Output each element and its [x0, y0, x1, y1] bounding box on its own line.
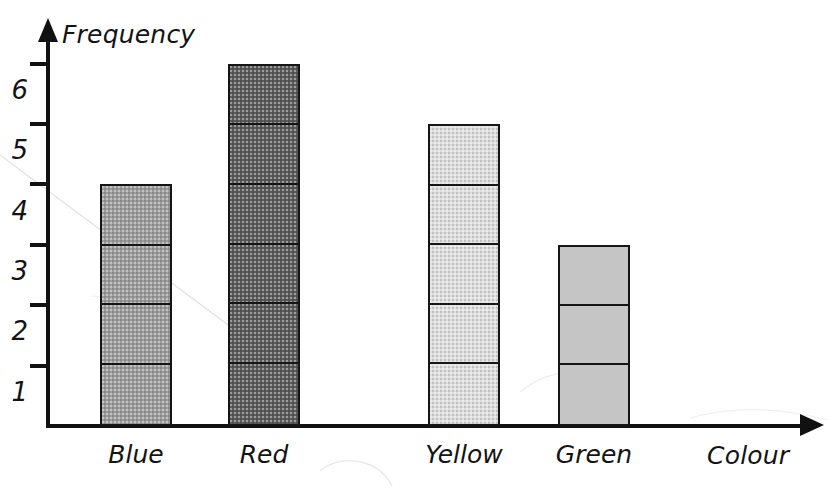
bar-segment: [102, 365, 170, 424]
x-axis-label-yellow: Yellow: [394, 441, 534, 469]
bar-green: [558, 245, 630, 426]
bar-segment: [230, 125, 298, 185]
bar-segment: [102, 246, 170, 305]
bar-segment: [230, 304, 298, 364]
bar-segment: [230, 185, 298, 245]
bar-segment: [430, 186, 498, 246]
bar-segment: [430, 364, 498, 424]
bar-segment: [230, 66, 298, 126]
bar-segment: [430, 126, 498, 186]
bar-segment: [560, 365, 628, 424]
bar-yellow: [428, 124, 500, 426]
bar-segment: [430, 245, 498, 305]
bar-segment: [102, 186, 170, 245]
bar-segment: [102, 305, 170, 364]
bar-red: [228, 64, 300, 426]
bar-segment: [560, 306, 628, 365]
bar-blue: [100, 184, 172, 426]
bar-segment: [230, 245, 298, 305]
plot-area: [0, 0, 830, 496]
bar-segment: [430, 305, 498, 365]
bar-segment: [230, 364, 298, 424]
x-axis-label-red: Red: [194, 441, 334, 469]
x-axis-label-green: Green: [524, 441, 664, 469]
bar-segment: [560, 247, 628, 306]
bar-chart-figure: Frequency Colour 123456 BlueRedYellowGre…: [0, 0, 830, 496]
x-axis-label-blue: Blue: [66, 441, 206, 469]
